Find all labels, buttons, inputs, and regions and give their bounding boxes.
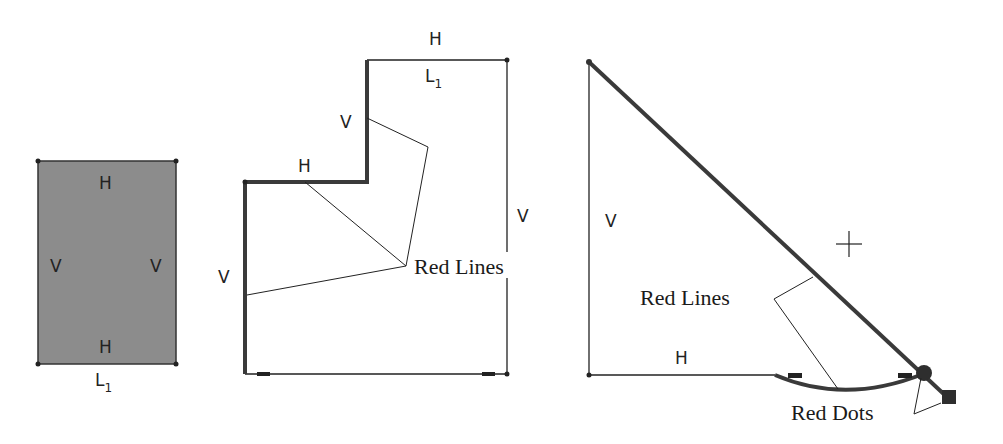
horizontal-marker — [788, 373, 802, 378]
leader-line — [774, 277, 838, 389]
diagonal-selected-edge — [589, 62, 948, 398]
relation-label-h-top: H — [429, 29, 442, 49]
corner-point — [586, 59, 592, 65]
corner-point — [174, 159, 179, 164]
corner-point — [505, 372, 510, 377]
stepped-profile-panel: H L1 H V V V Red Lines — [218, 29, 540, 377]
rectangle-panel: H H V V L1 — [36, 159, 179, 396]
corner-point — [243, 180, 248, 185]
relation-label-v: V — [605, 211, 617, 231]
horizontal-marker — [482, 372, 495, 376]
horizontal-marker — [257, 372, 270, 376]
callout-red-lines: Red Lines — [414, 254, 504, 279]
sketch-relations-diagram: H H V V L1 H L1 H V V V Red Lines — [0, 0, 1003, 444]
corner-point — [36, 362, 41, 367]
red-dot-endpoint — [942, 390, 956, 404]
callout-red-dots: Red Dots — [791, 400, 874, 425]
corner-point — [505, 58, 510, 63]
leader-line — [914, 378, 941, 414]
leader-line — [367, 118, 428, 266]
relation-label-h-top: H — [99, 173, 112, 193]
profile-thin-outline — [245, 60, 507, 374]
dimension-label: L1 — [425, 66, 442, 91]
relation-label-v-step: V — [340, 112, 352, 132]
dimension-label: L1 — [95, 370, 112, 395]
red-dot-tangent-point — [916, 365, 932, 381]
horizontal-marker — [898, 373, 912, 378]
relation-label-h: H — [675, 348, 688, 368]
triangle-arc-panel: V H Red Lines Red Dots — [586, 59, 956, 425]
relation-label-h-bottom: H — [99, 337, 112, 357]
relation-label-v-right: V — [517, 206, 529, 226]
relation-label-v-right: V — [150, 256, 162, 276]
relation-label-v-left: V — [218, 267, 230, 287]
corner-point — [587, 373, 592, 378]
corner-point — [174, 362, 179, 367]
corner-point — [36, 159, 41, 164]
leader-line — [247, 182, 406, 295]
relation-label-v-left: V — [50, 256, 62, 276]
profile-selected-edges — [245, 60, 367, 374]
relation-label-h-step: H — [298, 156, 311, 176]
callout-red-lines: Red Lines — [640, 285, 730, 310]
